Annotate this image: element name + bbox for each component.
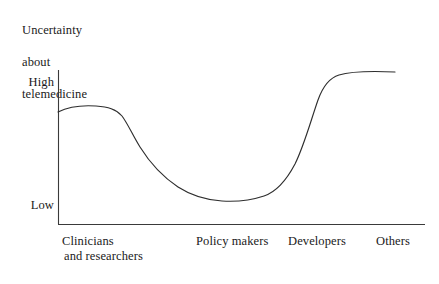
chart-figure: Uncertainty about telemedicine High Low … — [0, 0, 439, 284]
x-tick-label-policy-makers: Policy makers — [196, 234, 268, 249]
x-tick-label-clinicians: Clinicians and researchers — [62, 234, 143, 264]
x-tick-label-clinicians-line-1: Clinicians — [62, 234, 114, 248]
x-tick-label-others: Others — [376, 234, 410, 249]
x-tick-label-clinicians-line-2: and researchers — [64, 249, 143, 264]
uncertainty-curve — [58, 71, 395, 201]
x-tick-label-developers: Developers — [288, 234, 346, 249]
